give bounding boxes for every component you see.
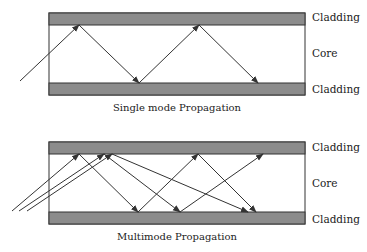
- core-label: Core: [312, 47, 338, 59]
- bottom-cladding: [49, 83, 305, 95]
- bottom-cladding-label: Cladding: [312, 213, 360, 225]
- top-cladding-label: Cladding: [312, 11, 360, 23]
- core-label: Core: [312, 177, 338, 189]
- multimode-caption: Multimode Propagation: [117, 231, 237, 242]
- top-cladding: [49, 13, 305, 25]
- bottom-cladding-label: Cladding: [312, 83, 360, 95]
- multimode-fiber: [12, 142, 305, 224]
- top-cladding: [49, 142, 305, 154]
- bottom-cladding: [49, 212, 305, 224]
- single-mode-caption: Single mode Propagation: [113, 102, 241, 113]
- top-cladding-label: Cladding: [312, 141, 360, 153]
- single-mode-fiber: [20, 13, 305, 95]
